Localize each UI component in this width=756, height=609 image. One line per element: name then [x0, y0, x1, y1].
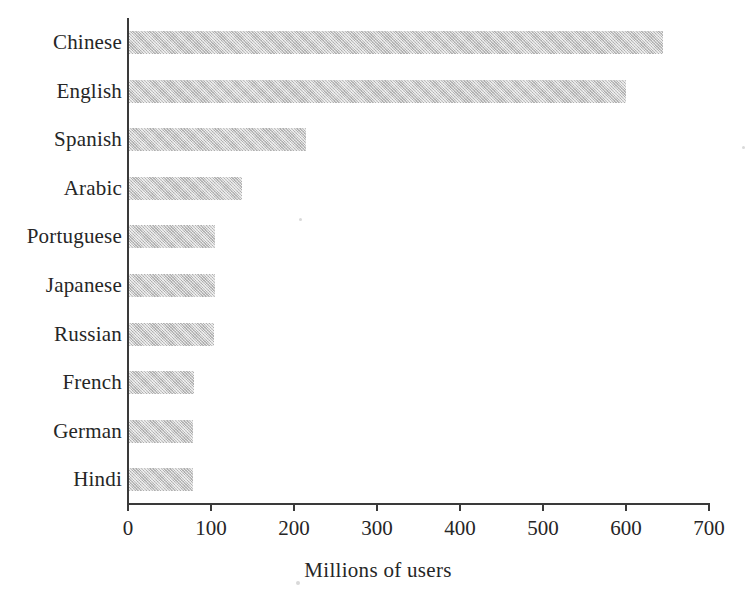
bar-french	[128, 371, 194, 394]
category-label: Hindi	[73, 464, 122, 494]
x-tick	[459, 503, 460, 511]
category-label: French	[62, 367, 122, 397]
bar-row: Arabic	[0, 164, 756, 213]
bar-spanish	[128, 128, 306, 151]
x-tick	[127, 503, 128, 511]
category-label: Japanese	[46, 270, 122, 300]
category-label: Russian	[54, 319, 122, 349]
bar-row: English	[0, 67, 756, 116]
bar-row: Hindi	[0, 455, 756, 504]
x-tick-label: 400	[420, 515, 500, 541]
bar-portuguese	[128, 225, 215, 248]
x-tick-label: 300	[337, 515, 417, 541]
bar-hindi	[128, 468, 193, 491]
bar-row: Chinese	[0, 18, 756, 67]
category-label: German	[53, 416, 122, 446]
x-axis-title: Millions of users	[0, 558, 756, 583]
bar-japanese	[128, 274, 215, 297]
x-tick-label: 700	[669, 515, 749, 541]
x-tick-label: 600	[586, 515, 666, 541]
x-tick	[625, 503, 626, 511]
x-axis-line	[127, 503, 710, 505]
bar-row: German	[0, 407, 756, 456]
x-tick	[210, 503, 211, 511]
category-label: English	[56, 76, 122, 106]
x-tick-label: 100	[171, 515, 251, 541]
x-tick	[708, 503, 709, 511]
category-label: Chinese	[53, 27, 122, 57]
bar-arabic	[128, 177, 242, 200]
bar-russian	[128, 323, 214, 346]
bar-row: Spanish	[0, 115, 756, 164]
bar-chinese	[128, 31, 663, 54]
bar-row: Portuguese	[0, 212, 756, 261]
category-label: Spanish	[54, 124, 122, 154]
x-tick-label: 500	[503, 515, 583, 541]
bar-row: French	[0, 358, 756, 407]
bar-row: Japanese	[0, 261, 756, 310]
category-label: Portuguese	[27, 221, 122, 251]
y-axis-line	[127, 18, 129, 504]
x-tick	[293, 503, 294, 511]
category-label: Arabic	[64, 173, 122, 203]
bar-english	[128, 80, 626, 103]
x-tick-label: 0	[88, 515, 168, 541]
bar-row: Russian	[0, 310, 756, 359]
x-tick	[376, 503, 377, 511]
bar-german	[128, 420, 193, 443]
bar-chart: ChineseEnglishSpanishArabicPortugueseJap…	[0, 0, 756, 609]
plot-area: ChineseEnglishSpanishArabicPortugueseJap…	[0, 0, 756, 609]
x-tick-label: 200	[254, 515, 334, 541]
x-tick	[542, 503, 543, 511]
